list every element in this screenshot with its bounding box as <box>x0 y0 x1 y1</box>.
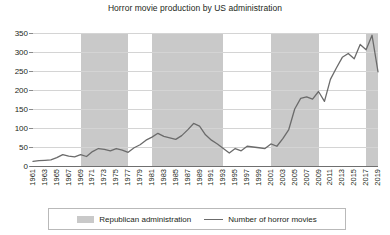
x-axis-tick-label: 2015 <box>350 169 358 186</box>
x-axis-tick-label: 1975 <box>112 169 120 186</box>
legend-item-republican: Republican administration <box>77 215 191 224</box>
x-axis-tick-label: 1997 <box>243 169 251 186</box>
x-axis-tick-label: 1973 <box>100 169 108 186</box>
x-axis-tick-label: 1963 <box>41 169 49 186</box>
x-axis-tick-label: 2011 <box>326 169 334 185</box>
x-axis-tick-label: 2017 <box>362 169 370 186</box>
x-axis-tick-label: 2009 <box>315 169 323 186</box>
horror-movies-line-swatch <box>204 219 223 220</box>
x-axis-tick-label: 2005 <box>291 169 299 186</box>
x-axis-tick-label: 1985 <box>172 169 180 186</box>
x-axis-tick-label: 1961 <box>29 169 37 186</box>
x-axis-tick-label: 1969 <box>77 169 85 186</box>
x-axis-tick-label: 1965 <box>53 169 61 186</box>
chart-legend: Republican administration Number of horr… <box>48 208 346 230</box>
horror-movie-chart: Horror movie production by US administra… <box>0 0 390 235</box>
legend-label-horror-movies: Number of horror movies <box>228 215 316 224</box>
x-axis-tick-label: 2001 <box>267 169 275 186</box>
x-axis-tick-label: 1999 <box>255 169 263 186</box>
x-axis-tick-label: 1995 <box>231 169 239 186</box>
x-axis-tick-label: 1979 <box>136 169 144 186</box>
republican-band-swatch <box>77 216 94 223</box>
x-axis-tick-label: 2003 <box>279 169 287 186</box>
x-axis-tick-label: 1977 <box>124 169 132 186</box>
x-axis-tick-label: 1967 <box>65 169 73 186</box>
x-axis-labels: 1961196319651967196919711973197519771979… <box>0 0 390 235</box>
x-axis-tick-label: 1983 <box>160 169 168 186</box>
x-axis-tick-label: 1991 <box>207 169 215 186</box>
x-axis-tick-label: 2019 <box>374 169 382 186</box>
legend-label-republican: Republican administration <box>99 215 191 224</box>
x-axis-tick-label: 1993 <box>219 169 227 186</box>
x-axis-tick-label: 2007 <box>303 169 311 186</box>
legend-item-horror-movies: Number of horror movies <box>204 215 316 224</box>
x-axis-tick-label: 1981 <box>148 169 156 186</box>
x-axis-tick-label: 1987 <box>184 169 192 186</box>
x-axis-tick-label: 1971 <box>88 169 96 186</box>
x-axis-tick-label: 2013 <box>338 169 346 186</box>
x-axis-tick-label: 1989 <box>196 169 204 186</box>
